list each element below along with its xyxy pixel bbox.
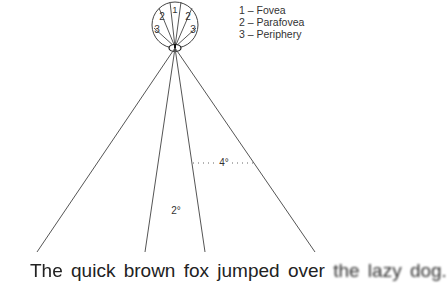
region-label-periphery-left: 3	[154, 24, 160, 35]
sentence-blurred-start: The	[30, 260, 63, 281]
region-label-periphery-right: 3	[190, 24, 196, 35]
periphery-line-right	[175, 48, 315, 252]
legend-item-periphery: 3 – Periphery	[239, 28, 304, 40]
sentence-blurred-end: the lazy dog.	[333, 260, 447, 281]
fovea-line-right	[175, 48, 205, 252]
legend: 1 – Fovea 2 – Parafovea 3 – Periphery	[239, 4, 304, 40]
region-label-parafovea-left: 2	[159, 11, 165, 22]
fovea-line-left	[145, 48, 175, 252]
legend-item-fovea: 1 – Fovea	[239, 4, 304, 16]
region-label-fovea: 1	[172, 4, 177, 15]
example-sentence: The quick brown fox jumped over the lazy…	[30, 260, 447, 282]
sight-lines	[37, 48, 315, 252]
angle-label-narrow: 2°	[171, 205, 181, 216]
angle-label-wide: 4°	[219, 157, 229, 168]
legend-item-parafovea: 2 – Parafovea	[239, 16, 304, 28]
sentence-sharp: quick brown fox jumped over	[71, 260, 325, 281]
periphery-line-left	[37, 48, 175, 252]
region-label-parafovea-right: 2	[185, 11, 191, 22]
